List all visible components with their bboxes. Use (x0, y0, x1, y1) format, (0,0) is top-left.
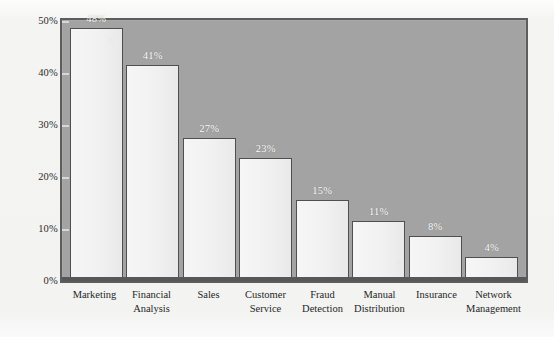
bar-slot: 8% (407, 20, 464, 278)
bar-slot: 27% (181, 20, 238, 278)
y-axis-tick-mark (62, 229, 69, 231)
x-axis-baseline (62, 277, 526, 281)
bar (239, 158, 292, 278)
bar (183, 138, 236, 278)
x-axis-category-label-line: Financial (123, 288, 180, 302)
x-axis-category-label-line: Service (237, 302, 294, 316)
x-axis-category-label-line: Manual (351, 288, 408, 302)
bar (126, 65, 179, 278)
y-axis-tick-mark (62, 21, 69, 23)
bar-slot: 48% (68, 20, 125, 278)
x-axis-category-label: ManualDistribution (351, 288, 408, 334)
y-axis-tick-label: 30% (14, 119, 58, 130)
bar (409, 236, 462, 278)
bar-value-label: 27% (199, 123, 219, 134)
bar-value-label: 23% (256, 143, 276, 154)
bar-slot: 11% (351, 20, 408, 278)
bar-series: 48%41%27%23%15%11%8%4% (62, 20, 526, 278)
bar-slot: 15% (294, 20, 351, 278)
y-axis-tick-mark (62, 73, 69, 75)
bar-value-label: 41% (143, 50, 163, 61)
x-axis-category-label: Marketing (66, 288, 123, 334)
bar (296, 200, 349, 278)
x-axis-category-label-line: Distribution (351, 302, 408, 316)
x-axis-category-label-line: Management (465, 302, 522, 316)
x-axis-category-label: Sales (180, 288, 237, 334)
x-axis-category-label: NetworkManagement (465, 288, 522, 334)
y-axis: 50%40%30%20%10%0% (6, 0, 58, 337)
x-axis-category-label-line: Network (465, 288, 522, 302)
x-axis-category-label-line: Sales (180, 288, 237, 302)
bar-value-label: 11% (369, 206, 388, 217)
bar-slot: 41% (125, 20, 182, 278)
y-axis-tick-mark (62, 125, 69, 127)
x-axis-category-label-line: Marketing (66, 288, 123, 302)
y-axis-tick-label: 10% (14, 223, 58, 234)
bar (70, 28, 123, 278)
bar-slot: 23% (238, 20, 295, 278)
x-axis-category-labels: MarketingFinancialAnalysisSalesCustomerS… (60, 288, 528, 334)
plot-area: 48%41%27%23%15%11%8%4% (60, 18, 528, 283)
x-axis-category-label-line: Analysis (123, 302, 180, 316)
bar-value-label: 4% (485, 242, 499, 253)
bar-slot: 4% (464, 20, 521, 278)
x-axis-category-label-line: Detection (294, 302, 351, 316)
x-axis-category-label-line: Insurance (408, 288, 465, 302)
x-axis-category-label-line: Fraud (294, 288, 351, 302)
bar (465, 257, 518, 278)
x-axis-category-label: CustomerService (237, 288, 294, 334)
bar-value-label: 15% (312, 185, 332, 196)
x-axis-category-label-line: Customer (237, 288, 294, 302)
bar (352, 221, 405, 278)
bar-chart-figure: 50%40%30%20%10%0% 48%41%27%23%15%11%8%4%… (0, 0, 554, 337)
x-axis-category-label: FinancialAnalysis (123, 288, 180, 334)
bar-value-label: 8% (428, 221, 442, 232)
y-axis-tick-label: 50% (14, 15, 58, 26)
bar-value-label: 48% (86, 13, 106, 24)
y-axis-tick-label: 20% (14, 171, 58, 182)
x-axis-category-label: Insurance (408, 288, 465, 334)
y-axis-tick-mark (62, 177, 69, 179)
y-axis-tick-label: 0% (14, 275, 58, 286)
y-axis-tick-label: 40% (14, 67, 58, 78)
x-axis-category-label: FraudDetection (294, 288, 351, 334)
